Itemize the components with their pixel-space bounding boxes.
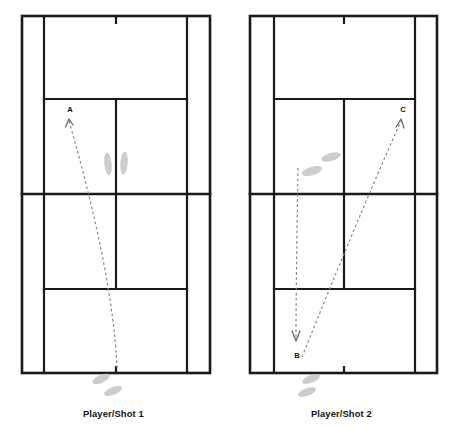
- court-left: A: [22, 16, 210, 398]
- caption-player-shot-2: Player/Shot 2: [311, 408, 372, 419]
- trajectory-shot-2-outgoing: [302, 121, 401, 357]
- caption-player-shot-1: Player/Shot 1: [83, 408, 144, 419]
- court-right: C B: [250, 16, 437, 399]
- footprint-right-net-1: [320, 150, 341, 163]
- point-label-c: C: [400, 105, 406, 114]
- footprint-left-net-2: [120, 151, 129, 174]
- footprint-left-baseline-2: [103, 384, 123, 398]
- point-label-a: A: [67, 105, 73, 114]
- arrowhead-shot-2-outgoing: [396, 119, 404, 128]
- tennis-shot-diagram: A: [0, 0, 458, 428]
- footprint-right-baseline-2: [297, 385, 317, 399]
- footprint-right-net-2: [301, 164, 324, 178]
- courts-svg: A: [0, 0, 458, 428]
- point-label-b: B: [294, 351, 300, 360]
- footprint-left-net-1: [103, 152, 113, 176]
